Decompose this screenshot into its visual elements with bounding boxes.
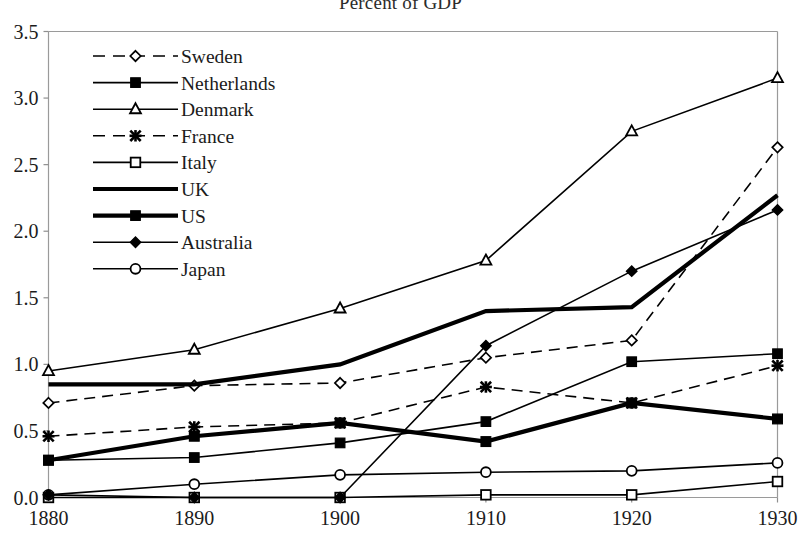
data-point-marker [627, 466, 637, 476]
data-point-marker [44, 455, 54, 465]
data-point-marker [481, 437, 491, 447]
data-point-marker [627, 490, 637, 500]
data-point-marker [335, 378, 345, 388]
y-tick-label: 1.0 [14, 353, 39, 375]
y-tick-label: 2.5 [14, 154, 39, 176]
data-point-marker [627, 357, 637, 367]
legend-item-denmark[interactable]: Denmark [93, 99, 254, 120]
legend-item-sweden[interactable]: Sweden [93, 46, 243, 67]
data-point-marker [627, 398, 637, 408]
legend-item-italy[interactable]: Italy [93, 152, 217, 173]
axes [49, 32, 778, 498]
y-tick-label: 1.5 [14, 287, 39, 309]
legend-label: Denmark [181, 99, 254, 120]
data-point-marker [773, 477, 783, 487]
data-point-marker [190, 453, 200, 463]
data-point-marker [627, 266, 637, 276]
series-france [43, 360, 784, 442]
y-tick-label: 3.0 [14, 87, 39, 109]
legend-label: Sweden [181, 46, 243, 67]
line-chart-plot: 0.00.51.01.52.02.53.03.5 188018901900191… [0, 0, 801, 533]
y-tick-label: 0.5 [14, 420, 39, 442]
legend-label: Italy [181, 152, 217, 173]
data-point-marker [481, 490, 491, 500]
data-point-marker [772, 142, 782, 152]
x-axis-tick-labels: 188018901900191019201930 [29, 498, 798, 529]
series-japan [44, 458, 783, 500]
data-point-marker [773, 414, 783, 424]
data-point-marker [481, 467, 491, 477]
legend-item-us[interactable]: US [93, 206, 206, 227]
series-italy [44, 477, 783, 503]
data-series-group [43, 72, 784, 503]
data-point-marker [480, 255, 491, 265]
x-tick-label: 1930 [758, 507, 798, 529]
data-point-marker [131, 158, 141, 168]
series-line [49, 403, 778, 460]
data-point-marker [131, 264, 141, 274]
legend-label: UK [181, 179, 209, 200]
data-point-marker [773, 349, 783, 359]
series-denmark [43, 72, 783, 375]
data-point-marker [335, 470, 345, 480]
y-tick-label: 2.0 [14, 220, 39, 242]
legend-label: France [181, 126, 234, 147]
series-line [49, 463, 778, 495]
legend-label: Japan [181, 259, 226, 280]
data-point-marker [130, 51, 140, 61]
legend-item-france[interactable]: France [93, 126, 234, 147]
legend-label: Netherlands [181, 73, 275, 94]
data-point-marker [480, 381, 492, 392]
data-point-marker [130, 103, 141, 113]
data-point-marker [773, 458, 783, 468]
x-tick-label: 1900 [320, 507, 360, 529]
x-tick-label: 1910 [466, 507, 506, 529]
data-point-marker [43, 431, 55, 442]
y-tick-label: 0.0 [14, 487, 39, 509]
data-point-marker [772, 72, 783, 82]
legend-item-japan[interactable]: Japan [93, 259, 226, 280]
data-point-marker [131, 211, 141, 221]
data-point-marker [627, 335, 637, 345]
data-point-marker [481, 353, 491, 363]
data-point-marker [43, 398, 53, 408]
chart-container: Percent of GDP 0.00.51.01.52.02.53.03.5 … [0, 0, 801, 533]
data-point-marker [189, 431, 199, 441]
series-line [49, 78, 778, 371]
series-line [49, 195, 778, 384]
x-tick-label: 1890 [174, 507, 214, 529]
series-line [49, 366, 778, 437]
x-tick-label: 1880 [29, 507, 69, 529]
x-tick-label: 1920 [612, 507, 652, 529]
data-point-marker [335, 418, 345, 428]
series-line [49, 210, 778, 498]
series-uk [49, 195, 778, 384]
legend-item-uk[interactable]: UK [93, 179, 209, 200]
legend-label: US [181, 206, 206, 227]
chart-legend: SwedenNetherlandsDenmarkFranceItalyUKUSA… [93, 46, 275, 280]
data-point-marker [130, 130, 142, 141]
data-point-marker [481, 417, 491, 427]
series-us [44, 398, 783, 465]
legend-item-australia[interactable]: Australia [93, 232, 253, 253]
data-point-marker [772, 360, 784, 371]
data-point-marker [772, 205, 782, 215]
data-point-marker [335, 438, 345, 448]
legend-label: Australia [181, 232, 253, 253]
series-line [49, 482, 778, 498]
data-point-marker [189, 479, 199, 489]
data-point-marker [131, 78, 141, 88]
legend-item-netherlands[interactable]: Netherlands [93, 73, 275, 94]
data-point-marker [130, 237, 140, 247]
y-tick-label: 3.5 [14, 21, 39, 43]
series-line [49, 147, 778, 403]
